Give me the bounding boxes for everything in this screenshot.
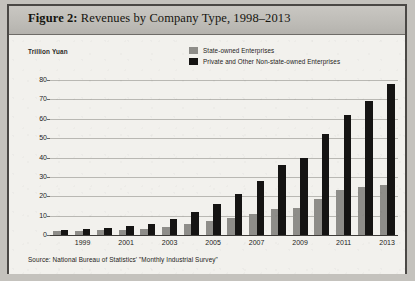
figure-title-text: Revenues by Company Type, 1998–2013 bbox=[81, 11, 291, 25]
bar-private-2010 bbox=[322, 134, 330, 235]
bar-group-2000 bbox=[97, 228, 112, 235]
y-tick-label-10: 10 bbox=[7, 212, 47, 219]
bar-group-2008 bbox=[271, 165, 286, 235]
x-tick-label-2013: 2013 bbox=[379, 239, 395, 246]
bar-series-container bbox=[50, 80, 398, 235]
y-tick-label-60: 60 bbox=[7, 115, 47, 122]
plot-region: 01020304050607080 bbox=[50, 80, 398, 235]
legend-label-private: Private and Other Non-state-owned Enterp… bbox=[203, 58, 340, 65]
legend-label-state-owned: State-owned Enterprises bbox=[203, 47, 274, 54]
bar-group-2001 bbox=[119, 226, 134, 235]
bar-private-2011 bbox=[344, 115, 352, 235]
x-tick-label-2009: 2009 bbox=[292, 239, 308, 246]
bar-private-2009 bbox=[300, 158, 308, 236]
bar-group-2006 bbox=[227, 194, 242, 235]
bar-group-2005 bbox=[206, 204, 221, 235]
bar-state-owned-2005 bbox=[206, 221, 214, 235]
chart-legend: State-owned Enterprises Private and Othe… bbox=[189, 47, 340, 68]
y-tick-label-70: 70 bbox=[7, 95, 47, 102]
bar-private-2000 bbox=[104, 228, 112, 235]
x-tick-label-1999: 1999 bbox=[75, 239, 91, 246]
x-tick-label-2007: 2007 bbox=[249, 239, 265, 246]
source-note: Source: National Bureau of Statistics' "… bbox=[28, 256, 218, 263]
bar-group-2011 bbox=[336, 115, 351, 235]
bar-state-owned-2004 bbox=[184, 224, 192, 235]
title-band: Figure 2: Revenues by Company Type, 1998… bbox=[9, 6, 405, 35]
y-tick-label-50: 50 bbox=[7, 134, 47, 141]
x-tick-label-2011: 2011 bbox=[336, 239, 351, 246]
scanned-page-background: Figure 2: Revenues by Company Type, 1998… bbox=[0, 0, 415, 281]
bar-group-2002 bbox=[140, 224, 155, 235]
y-tick-label-80: 80 bbox=[7, 76, 47, 83]
bar-state-owned-2012 bbox=[358, 187, 366, 235]
y-tick-label-40: 40 bbox=[7, 154, 47, 161]
x-axis-line bbox=[50, 235, 398, 236]
bar-private-2006 bbox=[235, 194, 243, 235]
bar-private-2013 bbox=[387, 84, 395, 235]
chart-area: Trillion Yuan State-owned Enterprises Pr… bbox=[9, 35, 405, 274]
bar-private-2012 bbox=[365, 101, 373, 235]
bar-state-owned-2006 bbox=[227, 218, 235, 235]
bar-group-2012 bbox=[358, 101, 373, 235]
bar-group-2007 bbox=[249, 181, 264, 235]
bar-state-owned-2013 bbox=[380, 185, 388, 235]
legend-item-state-owned: State-owned Enterprises bbox=[189, 47, 340, 54]
figure-sheet: Figure 2: Revenues by Company Type, 1998… bbox=[7, 4, 407, 274]
bar-private-2002 bbox=[148, 224, 156, 235]
bar-state-owned-2011 bbox=[336, 190, 344, 235]
x-tick-label-2005: 2005 bbox=[205, 239, 221, 246]
bar-state-owned-2008 bbox=[271, 209, 279, 235]
bar-group-2010 bbox=[314, 134, 329, 235]
x-tick-label-2001: 2001 bbox=[118, 239, 134, 246]
bar-state-owned-2009 bbox=[293, 208, 301, 235]
y-tick-label-30: 30 bbox=[7, 173, 47, 180]
black-square-icon bbox=[189, 58, 198, 65]
y-axis-label: Trillion Yuan bbox=[28, 48, 68, 55]
bar-state-owned-2010 bbox=[314, 199, 322, 235]
bar-private-2004 bbox=[191, 212, 199, 235]
x-tick-label-2003: 2003 bbox=[162, 239, 178, 246]
bar-group-2004 bbox=[184, 212, 199, 235]
y-tick-label-20: 20 bbox=[7, 192, 47, 199]
legend-item-private: Private and Other Non-state-owned Enterp… bbox=[189, 58, 340, 65]
bar-private-2005 bbox=[213, 204, 221, 235]
bar-group-2003 bbox=[162, 219, 177, 235]
bar-private-2001 bbox=[126, 226, 134, 235]
page-title: Figure 2: Revenues by Company Type, 1998… bbox=[28, 11, 291, 26]
gray-square-icon bbox=[189, 47, 198, 54]
y-tick-label-0: 0 bbox=[7, 231, 47, 238]
bar-group-2013 bbox=[380, 84, 395, 235]
figure-label: Figure 2: bbox=[28, 11, 78, 25]
bar-private-2003 bbox=[170, 219, 178, 235]
bar-state-owned-2003 bbox=[162, 227, 170, 235]
bar-private-2007 bbox=[257, 181, 265, 235]
bar-private-2008 bbox=[278, 165, 286, 235]
bar-state-owned-2007 bbox=[249, 214, 257, 235]
bar-group-2009 bbox=[293, 158, 308, 236]
